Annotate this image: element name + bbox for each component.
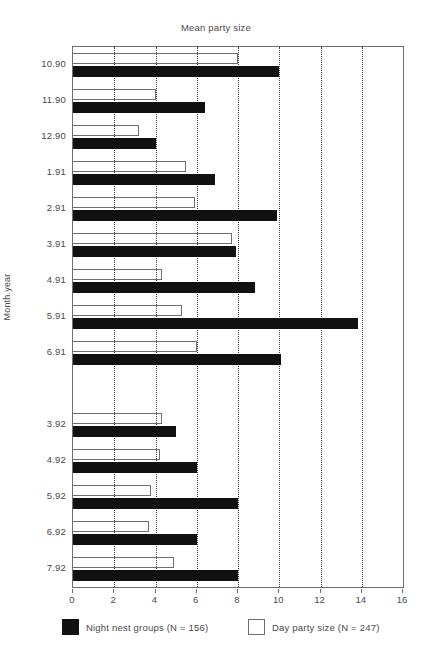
legend-label: Night nest groups (N = 156) — [86, 622, 208, 633]
plot-area — [72, 46, 404, 588]
x-axis-tick-label: 6 — [181, 594, 211, 605]
bar-day-party-size — [73, 521, 149, 533]
y-axis-tick-label: 10.90 — [4, 58, 66, 69]
x-axis-tick-label: 0 — [57, 594, 87, 605]
x-axis-tick-mark — [361, 589, 362, 593]
chart-title: Mean party size — [0, 22, 432, 33]
bar-night-nest-groups — [73, 138, 156, 150]
y-axis-tick-label: 7.92 — [4, 562, 66, 573]
bar-day-party-size — [73, 89, 156, 101]
y-axis-tick-label: 2.91 — [4, 202, 66, 213]
legend-swatch-icon — [62, 619, 79, 635]
x-axis-tick-mark — [155, 589, 156, 593]
bar-night-nest-groups — [73, 246, 236, 258]
bar-night-nest-groups — [73, 426, 176, 438]
y-axis-tick-label: 3.91 — [4, 238, 66, 249]
bar-night-nest-groups — [73, 570, 238, 582]
x-axis-tick-label: 12 — [305, 594, 335, 605]
chart-container: Mean party size Month.year 10.9011.9012.… — [0, 0, 432, 671]
x-axis-tick-label: 4 — [140, 594, 170, 605]
bar-night-nest-groups — [73, 66, 279, 78]
y-axis-tick-label: 6.91 — [4, 346, 66, 357]
x-axis-tick-label: 16 — [387, 594, 417, 605]
x-axis-tick-mark — [113, 589, 114, 593]
bar-day-party-size — [73, 485, 151, 497]
legend-item-night-nest-groups: Night nest groups (N = 156) — [62, 619, 208, 635]
chart-legend: Night nest groups (N = 156) Day party si… — [0, 619, 432, 643]
bar-day-party-size — [73, 449, 160, 461]
x-axis-tick-label: 8 — [222, 594, 252, 605]
x-axis-tick-mark — [402, 589, 403, 593]
legend-swatch-icon — [248, 619, 265, 635]
bar-night-nest-groups — [73, 498, 238, 510]
bar-day-party-size — [73, 413, 162, 425]
x-axis-tick-label: 14 — [346, 594, 376, 605]
y-axis-tick-label: 11.90 — [4, 94, 66, 105]
y-axis-tick-label: 4.91 — [4, 274, 66, 285]
y-axis-tick-label: 5.91 — [4, 310, 66, 321]
bar-day-party-size — [73, 233, 232, 245]
bar-night-nest-groups — [73, 462, 197, 474]
bar-day-party-size — [73, 125, 139, 137]
x-axis-tick-mark — [320, 589, 321, 593]
bar-night-nest-groups — [73, 102, 205, 114]
x-axis-tick-mark — [72, 589, 73, 593]
bar-day-party-size — [73, 557, 174, 569]
y-axis-tick-label: 5.92 — [4, 490, 66, 501]
legend-item-day-party-size: Day party size (N = 247) — [248, 619, 380, 635]
bar-night-nest-groups — [73, 534, 197, 546]
y-axis-tick-label: 6.92 — [4, 526, 66, 537]
gridline — [362, 47, 363, 587]
legend-label: Day party size (N = 247) — [272, 622, 380, 633]
x-axis-tick-label: 2 — [98, 594, 128, 605]
y-axis-tick-label: 1.91 — [4, 166, 66, 177]
bar-day-party-size — [73, 197, 195, 209]
x-axis-tick-mark — [278, 589, 279, 593]
bar-night-nest-groups — [73, 174, 215, 186]
bar-night-nest-groups — [73, 318, 358, 330]
x-axis-tick-mark — [196, 589, 197, 593]
y-axis-tick-label: 3.92 — [4, 418, 66, 429]
x-axis-ticks: 0246810121416 — [72, 589, 404, 611]
bar-day-party-size — [73, 305, 182, 317]
bar-day-party-size — [73, 53, 238, 65]
bar-day-party-size — [73, 161, 186, 173]
y-axis-tick-label: 4.92 — [4, 454, 66, 465]
bar-day-party-size — [73, 341, 197, 353]
x-axis-tick-label: 10 — [263, 594, 293, 605]
bar-night-nest-groups — [73, 210, 277, 222]
x-axis-tick-mark — [237, 589, 238, 593]
y-axis-tick-labels: 10.9011.9012.901.912.913.914.915.916.913… — [0, 46, 66, 588]
bar-day-party-size — [73, 269, 162, 281]
bar-night-nest-groups — [73, 354, 281, 366]
y-axis-tick-label: 12.90 — [4, 130, 66, 141]
bar-night-nest-groups — [73, 282, 255, 294]
